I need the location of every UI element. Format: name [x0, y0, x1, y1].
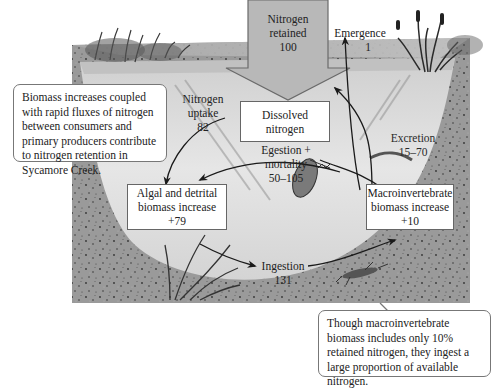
egestion-line1: Egestion +: [248, 143, 324, 157]
algal-box-line1: Algal and detrital: [137, 186, 217, 200]
dissolved-nitrogen-box: Dissolved nitrogen: [240, 101, 330, 142]
algal-detrital-box: Algal and detrital biomass increase +79: [127, 184, 227, 230]
nitrogen-uptake-value: 82: [176, 120, 230, 134]
nitrogen-uptake-line1: Nitrogen: [176, 92, 230, 106]
emergence-value: 1: [342, 40, 394, 54]
nitrogen-retained-value: 100: [248, 40, 328, 54]
nitrogen-retained-label: Nitrogen retained 100: [248, 12, 328, 54]
left-callout: Biomass increases coupled with rapid flu…: [13, 84, 167, 162]
emergence-text: Emergence: [326, 26, 394, 40]
nitrogen-uptake-line2: uptake: [176, 106, 230, 120]
right-callout: Though macroinvertebrate biomass include…: [318, 310, 491, 377]
macro-box-value: +10: [401, 214, 419, 228]
excretion-label: Excretion 15–70: [383, 131, 443, 159]
dissolved-nitrogen-line1: Dissolved: [262, 108, 308, 122]
egestion-mortality-label: Egestion + mortality 50–105: [248, 143, 324, 185]
nitrogen-retained-line2: retained: [248, 26, 328, 40]
macro-box-line1: Macroinvertebrate: [368, 186, 453, 200]
excretion-text: Excretion: [383, 131, 443, 145]
excretion-value: 15–70: [383, 145, 443, 159]
egestion-value: 50–105: [248, 171, 324, 185]
ingestion-text: Ingestion: [258, 259, 308, 273]
algal-box-line2: biomass increase: [138, 200, 216, 214]
dissolved-nitrogen-line2: nitrogen: [266, 122, 304, 136]
macro-box-line2: biomass increase: [371, 200, 449, 214]
ingestion-label: Ingestion 131: [258, 259, 308, 287]
nitrogen-uptake-label: Nitrogen uptake 82: [176, 92, 230, 134]
egestion-line2: mortality: [248, 157, 324, 171]
nitrogen-retained-line1: Nitrogen: [248, 12, 328, 26]
macroinvertebrate-box: Macroinvertebrate biomass increase +10: [366, 184, 454, 230]
algal-box-value: +79: [168, 214, 186, 228]
right-callout-text: Though macroinvertebrate biomass include…: [327, 317, 469, 387]
ingestion-value: 131: [258, 273, 308, 287]
emergence-label: Emergence 1: [326, 26, 394, 54]
